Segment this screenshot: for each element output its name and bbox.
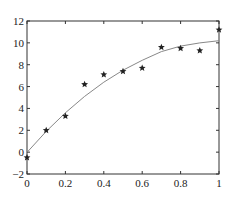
x-tick-label: 0.2 [59, 177, 73, 189]
plot-area [27, 21, 219, 174]
x-tick-label: 0.6 [135, 177, 149, 189]
x-tick-label: 1 [216, 177, 222, 189]
y-tick-label: 8 [19, 59, 25, 71]
y-tick-label: 2 [19, 124, 25, 136]
x-tick-label: 0.8 [174, 177, 188, 189]
y-tick-label: 4 [19, 102, 25, 114]
y-tick-label: 0 [19, 146, 25, 158]
x-tick-label: 0 [24, 177, 30, 189]
y-tick-label: 6 [19, 81, 25, 93]
x-tick-label: 0.4 [97, 177, 111, 189]
x-tick-labels: 00.20.40.60.81 [24, 177, 222, 189]
y-tick-label: −2 [12, 168, 24, 180]
y-tick-label: 10 [13, 37, 25, 49]
y-tick-label: 12 [13, 15, 24, 27]
y-tick-labels: −2024681012 [12, 15, 24, 180]
chart: 00.20.40.60.81 −2024681012 [0, 0, 231, 200]
